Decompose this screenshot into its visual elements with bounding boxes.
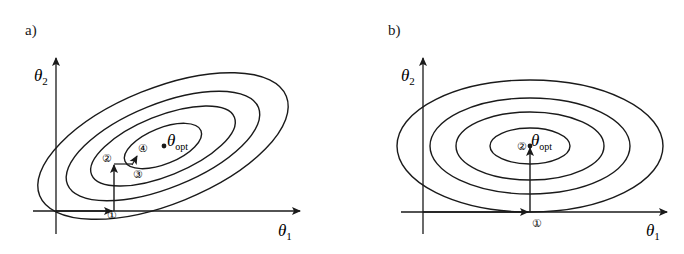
y-axis-label: θ2 bbox=[401, 66, 415, 87]
step-marker-3: ③ bbox=[133, 168, 143, 180]
y-axis-label: θ2 bbox=[34, 66, 48, 87]
step-marker-4: ④ bbox=[138, 142, 148, 154]
step-marker-2: ② bbox=[517, 140, 527, 152]
contour-plot-b: θopt ① ② θ2 θ1 bbox=[342, 0, 684, 254]
step-marker-1: ① bbox=[532, 217, 542, 229]
panel-a: a) θopt ① ② ③ ④ θ2 θ1 bbox=[0, 0, 342, 254]
contour-plot-a: θopt ① ② ③ ④ θ2 θ1 bbox=[0, 0, 342, 254]
step-4-arrow bbox=[132, 156, 137, 165]
x-axis-label: θ1 bbox=[278, 221, 292, 242]
step-marker-2: ② bbox=[102, 152, 112, 164]
optimum-point bbox=[162, 144, 167, 149]
step-marker-1: ① bbox=[107, 209, 117, 221]
optimum-label: θopt bbox=[167, 131, 188, 152]
panel-b: b) θopt ① ② θ2 θ1 bbox=[342, 0, 684, 254]
x-axis-label: θ1 bbox=[646, 221, 660, 242]
optimum-label: θopt bbox=[531, 131, 552, 152]
